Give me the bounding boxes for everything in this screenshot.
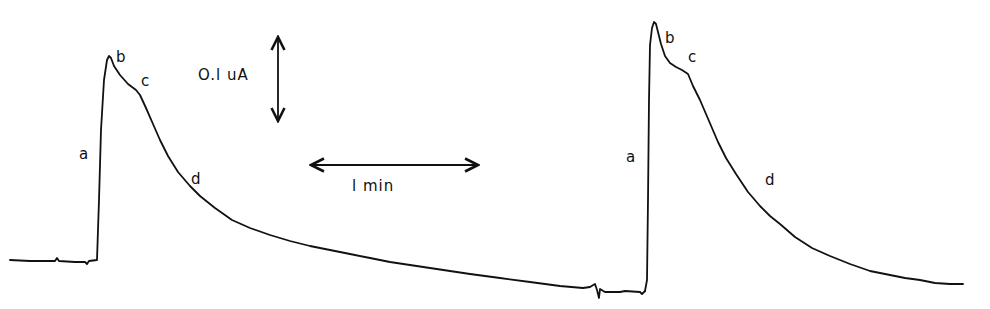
current-scale-label: O.l uA [198, 68, 249, 83]
trace-1-label-c: c [141, 74, 149, 89]
trace-1-label-a: a [79, 147, 88, 162]
trace-1-label-d: d [191, 172, 201, 187]
trace-2-label-a: a [626, 150, 635, 165]
time-scale-label: l min [352, 179, 394, 194]
trace-1-line [10, 56, 645, 298]
trace-2-label-d: d [765, 173, 775, 188]
trace-2-label-b: b [665, 31, 675, 46]
current-trace-figure [0, 0, 990, 309]
trace-1-label-b: b [116, 50, 126, 65]
trace-2-label-c: c [688, 50, 696, 65]
